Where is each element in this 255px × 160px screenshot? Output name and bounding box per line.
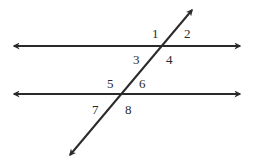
angle-label-7: 7 [92, 102, 99, 117]
angle-label-1: 1 [152, 26, 159, 41]
angle-label-8: 8 [125, 102, 132, 117]
diagram-canvas: 1 2 3 4 5 6 7 8 [0, 0, 255, 160]
transversal-diagram: 1 2 3 4 5 6 7 8 [0, 0, 255, 160]
angle-label-2: 2 [184, 26, 191, 41]
transversal-line [70, 10, 192, 155]
angle-label-6: 6 [139, 76, 146, 91]
angle-label-5: 5 [107, 76, 114, 91]
angle-label-3: 3 [133, 52, 140, 67]
angle-label-4: 4 [166, 52, 173, 67]
